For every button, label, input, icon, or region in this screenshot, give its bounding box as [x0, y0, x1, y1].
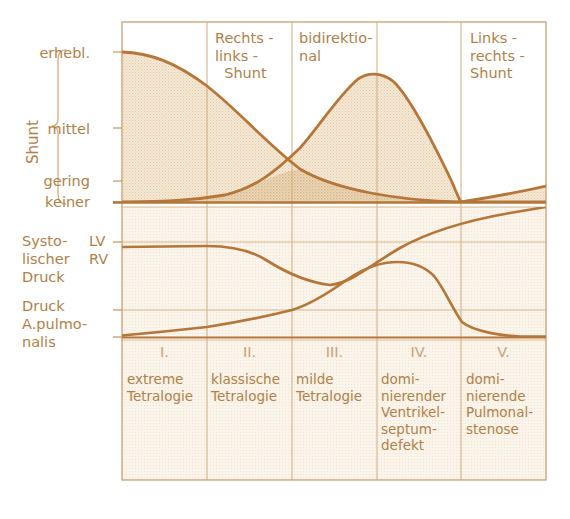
pressure-label-line-2: lischer — [22, 251, 70, 268]
pressure-label-line-1: Systo- — [22, 233, 67, 250]
column-roman-4: IV. — [377, 344, 461, 360]
y-tick-label-gering: gering — [24, 172, 90, 190]
column-caption-3: milde Tetralogie — [296, 371, 378, 404]
column-caption-1: extreme Tetralogie — [127, 371, 209, 404]
pressure-label-line-3: Druck — [22, 269, 65, 286]
zone-label-bidirektional: bidirektio- nal — [299, 30, 383, 65]
figure-root: erhebl. mittel gering keiner Shunt Systo… — [0, 0, 570, 519]
zone-label-links-rechts-shunt: Links - rechts - Shunt — [470, 30, 546, 83]
pulmonalis-label-line-3: nalis — [22, 334, 56, 351]
pressure-series-label-lv: LV — [89, 233, 105, 250]
column-caption-5: domi- nierende Pulmonal- stenose — [466, 371, 548, 437]
pulmonalis-label-line-2: A.pulmo- — [22, 316, 87, 333]
zone-label-rechts-links-shunt: Rechts - links - Shunt — [215, 30, 291, 83]
column-caption-2: klassische Tetralogie — [211, 371, 293, 404]
y-group-label-shunt: Shunt — [24, 120, 42, 164]
column-roman-3: III. — [292, 344, 377, 360]
y-tick-label-erheblich: erhebl. — [24, 44, 90, 62]
column-roman-5: V. — [461, 344, 546, 360]
column-roman-1: I. — [122, 344, 207, 360]
y-tick-label-keiner: keiner — [24, 193, 90, 211]
y-axis-ticks — [113, 52, 122, 337]
column-roman-2: II. — [207, 344, 292, 360]
pressure-series-label-rv: RV — [89, 251, 108, 268]
column-caption-4: domi- nierender Ventrikel- septum- defek… — [381, 371, 463, 454]
pulmonalis-label-line-1: Druck — [22, 298, 65, 315]
